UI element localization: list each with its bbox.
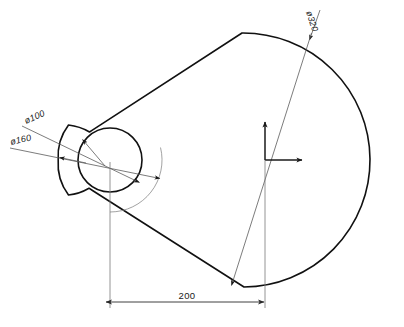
boss-leader-line-arrow2 — [60, 158, 87, 164]
bore-leader-line-arrow2 — [83, 140, 106, 167]
part-outline-path — [58, 33, 370, 287]
part-outline-group — [58, 33, 370, 287]
center-distance-dimension-group: 200 — [106, 290, 264, 302]
center-distance-label: 200 — [179, 290, 196, 301]
boss-leader-line — [10, 148, 160, 179]
coordinate-axes-group — [265, 122, 302, 160]
boss-diameter-label: ø160 — [9, 132, 32, 147]
body-diameter-label: ø320 — [304, 10, 320, 33]
engineering-drawing-canvas: ø100 ø160 ø320 200 — [0, 0, 404, 327]
cad-drawing-svg: ø100 ø160 ø320 200 — [0, 0, 404, 327]
bore-diameter-label: ø100 — [23, 108, 47, 126]
